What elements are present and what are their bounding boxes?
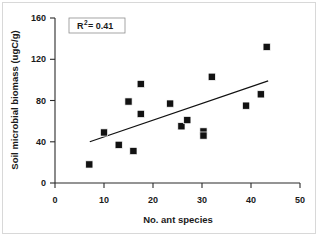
data-point [115,141,122,148]
data-point [184,116,191,123]
x-tick-label-30: 30 [197,195,207,205]
data-point [263,43,270,50]
r-squared-annotation: R 2 = 0.41 [69,18,125,33]
y-tick-label-40: 40 [36,137,46,147]
y-tick-label-0: 0 [41,178,46,188]
y-tick-label-80: 80 [36,96,46,106]
y-axis-tick-labels: 0 40 80 120 160 [31,13,46,188]
data-point [167,100,174,107]
data-point [86,161,93,168]
data-point [257,91,264,98]
x-tick-label-0: 0 [52,195,57,205]
plot-area [55,14,300,183]
y-tick-label-120: 120 [31,54,46,64]
data-point [243,102,250,109]
x-axis-ticks [55,183,300,188]
x-axis-title: No. ant species [143,214,213,225]
data-point [200,132,207,139]
x-tick-label-10: 10 [99,195,109,205]
y-axis-title: Soil microbial biomass (ugC/g) [9,30,20,169]
data-point [137,110,144,117]
scatter-chart: 0 40 80 120 160 0 10 20 30 40 50 No. ant… [0,0,320,238]
x-tick-label-20: 20 [148,195,158,205]
x-tick-label-50: 50 [295,195,305,205]
r-squared-prefix: R [77,21,84,31]
x-axis-tick-labels: 0 10 20 30 40 50 [52,195,305,205]
x-tick-label-40: 40 [246,195,256,205]
data-point [130,147,137,154]
data-point [100,129,107,136]
r-squared-value: = 0.41 [88,21,113,31]
data-point [208,73,215,80]
y-tick-label-160: 160 [31,13,46,23]
y-axis-ticks [50,18,55,183]
data-point [125,98,132,105]
figure-container: 0 40 80 120 160 0 10 20 30 40 50 No. ant… [0,0,320,238]
data-point [137,80,144,87]
